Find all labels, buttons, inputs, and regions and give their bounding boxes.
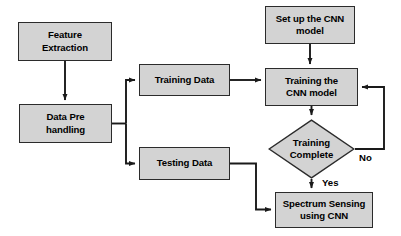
node-testing-data-label: Testing Data [155, 157, 215, 169]
node-training-cnn-model-label: Training the CNN model [283, 75, 340, 100]
flowchart-diagram: Feature Extraction Data Pre handling Tra… [0, 0, 401, 236]
edge-decision-no-loop [355, 87, 384, 149]
edge-label-yes: Yes [322, 177, 339, 188]
node-setup-cnn-model-label: Set up the CNN model [274, 13, 346, 38]
node-spectrum-sensing-label: Spectrum Sensing using CNN [281, 198, 368, 223]
edge-datapre-to-training-data [126, 80, 135, 124]
edge-label-no: No [359, 152, 372, 163]
node-training-complete[interactable]: Training Complete [268, 119, 355, 179]
edge-datapre-to-testing-data [126, 124, 135, 164]
node-feature-extraction-label: Feature Extraction [40, 29, 90, 54]
node-training-cnn-model[interactable]: Training the CNN model [265, 68, 358, 106]
node-setup-cnn-model[interactable]: Set up the CNN model [265, 6, 355, 44]
node-training-data-label: Training Data [153, 74, 216, 86]
node-data-pre-handling[interactable]: Data Pre handling [19, 104, 112, 143]
node-feature-extraction[interactable]: Feature Extraction [18, 22, 112, 61]
node-testing-data[interactable]: Testing Data [139, 147, 230, 180]
edge-testing-data-to-spectrum [230, 164, 271, 210]
node-training-data[interactable]: Training Data [139, 64, 230, 96]
diamond-shape [268, 119, 355, 179]
node-spectrum-sensing[interactable]: Spectrum Sensing using CNN [275, 192, 373, 228]
node-data-pre-handling-label: Data Pre handling [44, 111, 87, 136]
